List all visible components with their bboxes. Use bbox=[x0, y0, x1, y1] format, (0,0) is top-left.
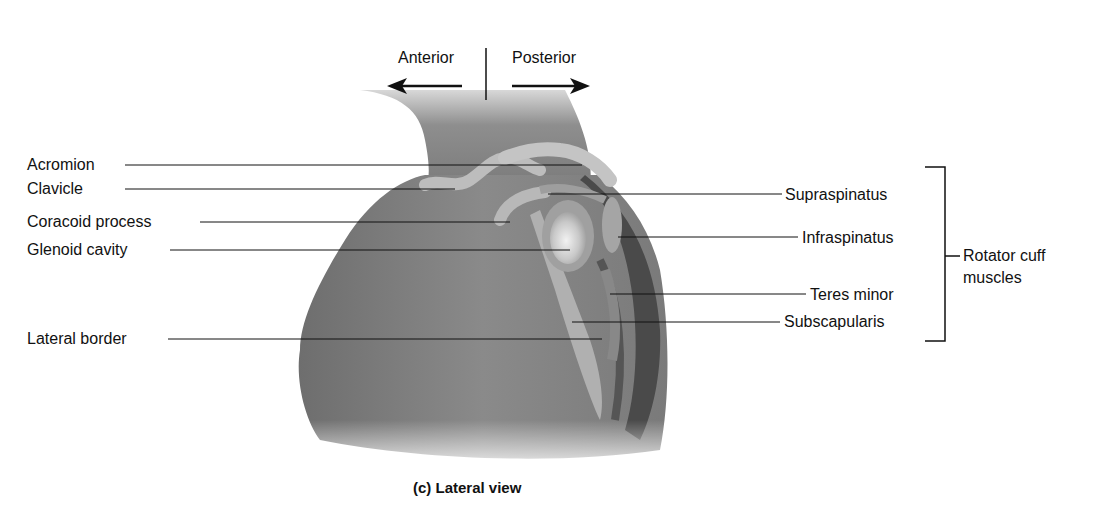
figure-caption: (c) Lateral view bbox=[413, 479, 521, 496]
shoulder-illustration bbox=[0, 0, 1109, 511]
label-clavicle: Clavicle bbox=[27, 180, 83, 198]
infraspinatus-muscle bbox=[602, 197, 622, 253]
label-subscapularis: Subscapularis bbox=[784, 313, 885, 331]
label-rotator-cuff-line1: Rotator cuff bbox=[963, 247, 1045, 265]
anterior-label: Anterior bbox=[398, 49, 454, 67]
label-teres-minor: Teres minor bbox=[810, 286, 894, 304]
label-glenoid-cavity: Glenoid cavity bbox=[27, 241, 128, 259]
label-rotator-cuff-line2: muscles bbox=[963, 269, 1022, 287]
rotator-cuff-bracket bbox=[925, 167, 945, 341]
label-infraspinatus: Infraspinatus bbox=[802, 229, 894, 247]
label-supraspinatus: Supraspinatus bbox=[785, 186, 887, 204]
posterior-label: Posterior bbox=[512, 49, 576, 67]
label-lateral-border: Lateral border bbox=[27, 330, 127, 348]
label-coracoid-process: Coracoid process bbox=[27, 213, 152, 231]
label-acromion: Acromion bbox=[27, 156, 95, 174]
